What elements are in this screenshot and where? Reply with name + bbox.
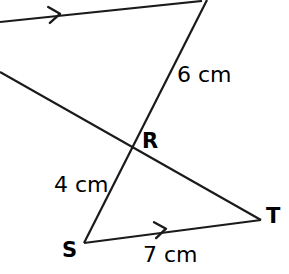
parallel-arrow-base bbox=[154, 221, 167, 238]
vertex-label-r: R bbox=[142, 131, 158, 152]
vertex-label-t: T bbox=[266, 206, 280, 227]
measure-label-4cm: 4 cm bbox=[54, 174, 109, 196]
steep-line-through-r bbox=[84, 0, 207, 243]
base-line-st bbox=[84, 220, 261, 243]
parallel-arrow-top bbox=[48, 6, 61, 23]
measure-label-6cm: 6 cm bbox=[177, 64, 232, 86]
measure-label-7cm: 7 cm bbox=[143, 244, 198, 266]
left-transversal-line bbox=[0, 72, 261, 220]
top-parallel-line bbox=[0, 1, 202, 22]
geometry-diagram: R S T 6 cm 4 cm 7 cm bbox=[0, 0, 289, 274]
vertex-label-s: S bbox=[62, 240, 77, 261]
